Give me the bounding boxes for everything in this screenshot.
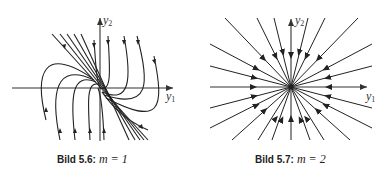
y2-axis-label: y2 bbox=[103, 14, 112, 28]
y1-axis-label: y1 bbox=[166, 90, 175, 104]
caption-m1: Bild 5.6:m = 1 bbox=[57, 152, 128, 167]
axes bbox=[210, 19, 367, 140]
caption-label: Bild 5.7: bbox=[255, 154, 294, 165]
caption-label: Bild 5.6: bbox=[57, 154, 96, 165]
y1-axis-label: y1 bbox=[366, 90, 375, 104]
phase-portrait-star-node bbox=[192, 0, 384, 172]
origin-point bbox=[289, 85, 293, 89]
caption-m2: Bild 5.7:m = 2 bbox=[255, 152, 326, 167]
figure-m1: y2 y1 Bild 5.6:m = 1 bbox=[0, 0, 192, 172]
figure-m2: y2 y1 Bild 5.7:m = 2 bbox=[192, 0, 384, 172]
arrow-glyphs bbox=[289, 85, 293, 89]
caption-math: m = 1 bbox=[99, 152, 128, 166]
y2-axis-label: y2 bbox=[295, 14, 304, 28]
caption-math: m = 2 bbox=[297, 152, 326, 166]
phase-portrait-degenerate-node bbox=[0, 0, 192, 172]
